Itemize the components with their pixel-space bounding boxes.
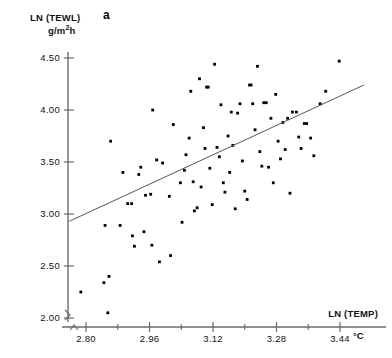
data-point [131,234,134,237]
data-point [168,195,171,198]
data-point [228,171,231,174]
data-point [230,111,233,114]
data-point [309,137,312,140]
data-point [224,191,227,194]
data-point [338,60,341,63]
data-point [208,167,211,170]
data-point [181,221,184,224]
data-point [207,86,210,89]
data-point [295,111,298,114]
data-point [284,148,287,151]
y-axis-unit-suffix: h [70,25,76,36]
data-point [193,209,196,212]
data-point [297,136,300,139]
y-tick-label: 4.50 [26,52,60,63]
data-point [198,77,201,80]
data-point [250,84,253,87]
data-point [274,93,277,96]
y-axis-unit-prefix: g/m [48,25,66,36]
data-point [192,180,195,183]
chart-figure: a LN (TEWL) g/m2h LN (TEMP) °C 2.002.503… [0,0,392,358]
data-point [312,154,315,157]
data-point [119,224,122,227]
data-point [139,166,142,169]
data-point [143,230,146,233]
data-point [158,260,161,263]
data-point [144,194,147,197]
data-point [204,147,207,150]
data-point [79,291,82,294]
x-axis-title: LN (TEMP) [328,308,378,319]
y-tick-label: 2.00 [26,312,60,323]
data-point [243,190,246,193]
data-point [200,186,203,189]
data-point [126,202,129,205]
data-point [150,244,153,247]
data-point [172,123,175,126]
y-tick-label: 3.00 [26,208,60,219]
data-point [277,140,280,143]
y-tick-label: 4.00 [26,104,60,115]
x-tick-label: 3.44 [320,333,360,344]
data-point [272,181,275,184]
data-point [241,160,244,163]
data-point [104,224,107,227]
data-point [265,101,268,104]
data-point [300,147,303,150]
data-point [220,103,223,106]
data-point [289,192,292,195]
data-point [109,140,112,143]
data-point [260,165,263,168]
data-point [262,101,265,104]
data-point [291,111,294,114]
y-axis-unit: g/m2h [48,24,76,36]
data-point [279,157,282,160]
data-point [213,63,216,66]
data-point [179,181,182,184]
tick-marks [64,58,340,332]
data-point [246,198,249,201]
panel-letter: a [103,8,110,22]
data-point [270,117,273,120]
data-point [234,207,237,210]
data-point [189,90,192,93]
data-point [305,122,308,125]
y-axis-title: LN (TEWL) [30,12,80,23]
data-point [196,206,199,209]
x-tick-label: 3.28 [257,333,297,344]
data-point [137,173,140,176]
data-point [108,275,111,278]
data-point [188,137,191,140]
data-point [155,159,158,162]
data-point [102,281,105,284]
data-point [161,162,164,165]
data-point [236,112,239,115]
data-point [258,150,261,153]
data-point [267,166,270,169]
regression-line [69,85,363,221]
y-tick-label: 2.50 [26,260,60,271]
data-point [254,128,257,131]
data-point [324,90,327,93]
x-tick-label: 3.12 [193,333,233,344]
data-point [130,202,133,205]
data-point [227,135,230,138]
data-point [239,102,242,105]
data-point [149,193,152,196]
data-point [169,254,172,257]
data-point [183,169,186,172]
data-point [122,171,125,174]
data-point [151,109,154,112]
data-point [185,153,188,156]
data-point [218,155,221,158]
data-point [216,146,219,149]
data-point [211,203,214,206]
x-tick-label: 2.96 [130,333,170,344]
data-point [202,126,205,129]
data-point [256,65,259,68]
x-tick-label: 2.80 [66,333,106,344]
data-point [222,181,225,184]
y-tick-label: 3.50 [26,156,60,167]
data-point [133,245,136,248]
data-points-group [79,60,340,314]
